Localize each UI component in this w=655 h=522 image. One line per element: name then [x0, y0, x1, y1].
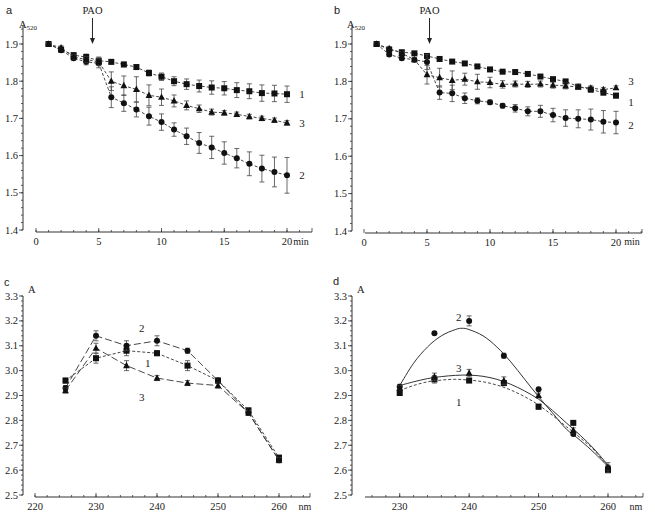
circle-marker [431, 330, 437, 336]
y-tick-label: 2.5 [334, 490, 347, 501]
circle-marker [171, 127, 177, 133]
triangle-marker [500, 377, 507, 383]
y-tick-label: 3.3 [334, 291, 347, 302]
series-line [66, 351, 280, 458]
square-marker [449, 59, 455, 65]
series-line [400, 328, 608, 466]
y-tick-label: 2.8 [5, 415, 18, 426]
circle-marker [108, 94, 114, 100]
circle-marker [512, 105, 518, 111]
series-line [66, 348, 280, 460]
circle-marker [133, 106, 139, 112]
circle-marker [536, 386, 542, 392]
y-tick-label: 1.7 [334, 113, 347, 124]
circle-marker [234, 155, 240, 161]
x-tick-label: 230 [88, 501, 104, 512]
series-2-circle: 2 [46, 41, 305, 193]
triangle-marker [120, 82, 127, 88]
circle-marker [184, 133, 190, 139]
x-tick-label: 260 [600, 501, 616, 512]
circle-marker [424, 59, 430, 65]
circle-marker [550, 112, 556, 118]
square-marker [536, 404, 542, 410]
y-tick-label: 2.9 [334, 390, 347, 401]
triangle-marker [474, 78, 481, 84]
y-tick-label: 1.9 [334, 39, 347, 50]
series-line [400, 375, 608, 465]
panel-a-absorbance-time-chart: a A5201.41.51.61.71.81.905101520minPAO12… [5, 4, 312, 247]
triangle-marker [246, 113, 253, 119]
x-tick-label: 240 [149, 501, 165, 512]
triangle-marker [183, 102, 190, 108]
triangle-marker [461, 75, 468, 81]
curve-label-3: 3 [628, 75, 634, 87]
panel-letter-c: c [4, 276, 10, 288]
square-marker [613, 93, 619, 99]
pao-annotation: PAO [419, 5, 439, 16]
triangle-marker [466, 369, 473, 375]
curve-label-1: 1 [299, 88, 305, 100]
x-axis-unit-label: min [624, 236, 640, 247]
x-axis-unit-label: nm [630, 501, 643, 512]
series-3-triangle: 3 [45, 40, 305, 129]
square-marker [570, 420, 576, 426]
y-tick-label: 2.6 [334, 465, 347, 476]
square-marker [185, 363, 191, 369]
y-tick-label: 3.2 [334, 315, 347, 326]
panel-letter-d: d [333, 275, 339, 287]
series-3-triangle: 3 [373, 40, 634, 92]
circle-marker [449, 90, 455, 96]
square-marker [184, 81, 190, 87]
square-marker [171, 78, 177, 84]
circle-marker [474, 98, 480, 104]
panel-letter-a: a [6, 4, 13, 16]
circle-marker [437, 90, 443, 96]
y-axis-label: A [357, 284, 365, 295]
x-tick-label: 15 [219, 236, 230, 247]
circle-marker [271, 169, 277, 175]
y-tick-label: 3.3 [5, 291, 18, 302]
circle-marker [93, 333, 99, 339]
x-tick-label: 260 [271, 501, 287, 512]
series-line [66, 336, 280, 460]
y-tick-label: 3.0 [334, 365, 347, 376]
triangle-marker [108, 77, 115, 83]
x-tick-label: 250 [210, 501, 226, 512]
curve-label-3: 3 [456, 362, 462, 374]
pao-annotation: PAO [82, 5, 102, 16]
square-marker [234, 87, 240, 93]
circle-marker [209, 144, 215, 150]
x-tick-label: 0 [361, 237, 366, 248]
curve-label-2: 2 [299, 169, 305, 181]
panel-d-spectrum-chart: d A2.52.62.72.82.93.03.13.23.32302402502… [333, 275, 643, 512]
triangle-marker [146, 92, 153, 98]
circle-marker [185, 348, 191, 354]
y-axis-label: A520 [19, 19, 38, 32]
x-tick-label: 10 [485, 237, 496, 248]
square-marker [121, 61, 127, 67]
square-marker [525, 71, 531, 77]
square-marker [437, 56, 443, 62]
triangle-marker [93, 344, 100, 350]
square-marker [550, 76, 556, 82]
circle-marker [259, 166, 265, 172]
circle-marker [221, 150, 227, 156]
y-tick-label: 2.6 [5, 465, 18, 476]
curve-label-3: 3 [299, 117, 305, 129]
circle-marker [196, 140, 202, 146]
square-marker [474, 63, 480, 69]
square-marker [512, 69, 518, 75]
square-marker [411, 50, 417, 56]
y-tick-label: 2.7 [5, 440, 18, 451]
square-marker [259, 90, 265, 96]
square-marker [284, 91, 290, 97]
series-1-square: 1 [374, 41, 634, 108]
square-marker [271, 90, 277, 96]
circle-marker [487, 99, 493, 105]
y-tick-label: 3.1 [5, 340, 18, 351]
circle-marker [154, 338, 160, 344]
triangle-marker [449, 76, 456, 82]
series-1-square: 1 [397, 376, 611, 474]
series-line [400, 379, 608, 466]
circle-marker [501, 353, 507, 359]
